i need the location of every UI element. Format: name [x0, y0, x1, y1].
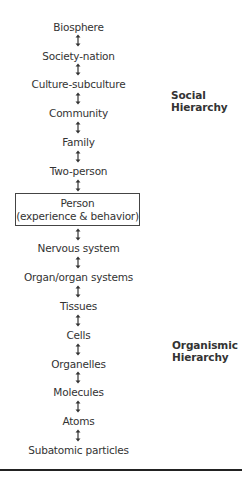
- level-biosphere: Biosphere: [0, 21, 157, 33]
- double-arrow-icon: [74, 63, 82, 76]
- double-arrow-icon: [74, 429, 82, 442]
- person-focus-box: Person (experience & behavior): [15, 193, 140, 226]
- double-arrow-icon: [74, 314, 82, 327]
- double-arrow-icon: [74, 34, 82, 47]
- level-nervous-system: Nervous system: [0, 242, 157, 254]
- level-organelles: Organelles: [0, 358, 157, 370]
- level-family: Family: [0, 136, 157, 148]
- level-tissues: Tissues: [0, 300, 157, 312]
- organismic-label-line2: Hierarchy: [172, 351, 238, 363]
- double-arrow-icon: [74, 285, 82, 298]
- level-atoms: Atoms: [0, 415, 157, 427]
- double-arrow-icon: [74, 150, 82, 163]
- double-arrow-icon: [74, 92, 82, 105]
- double-arrow-icon: [74, 256, 82, 269]
- level-two-person: Two-person: [0, 165, 157, 177]
- level-society-nation: Society-nation: [0, 50, 157, 62]
- bottom-rule-divider: [0, 469, 242, 471]
- social-label-line2: Hierarchy: [171, 101, 228, 113]
- social-label-line1: Social: [171, 89, 228, 101]
- person-label: Person: [16, 197, 139, 210]
- organismic-hierarchy-label: Organismic Hierarchy: [172, 339, 238, 363]
- double-arrow-icon: [74, 228, 82, 241]
- double-arrow-icon: [74, 400, 82, 413]
- level-community: Community: [0, 107, 157, 119]
- double-arrow-icon: [74, 343, 82, 356]
- level-organ-systems: Organ/organ systems: [0, 271, 157, 283]
- level-cells: Cells: [0, 329, 157, 341]
- double-arrow-icon: [74, 121, 82, 134]
- double-arrow-icon: [74, 179, 82, 192]
- organismic-label-line1: Organismic: [172, 339, 238, 351]
- level-molecules: Molecules: [0, 386, 157, 398]
- level-subatomic-particles: Subatomic particles: [0, 444, 157, 456]
- level-culture-subculture: Culture-subculture: [0, 78, 157, 90]
- person-sublabel: (experience & behavior): [16, 210, 139, 223]
- social-hierarchy-label: Social Hierarchy: [171, 89, 228, 113]
- double-arrow-icon: [74, 371, 82, 384]
